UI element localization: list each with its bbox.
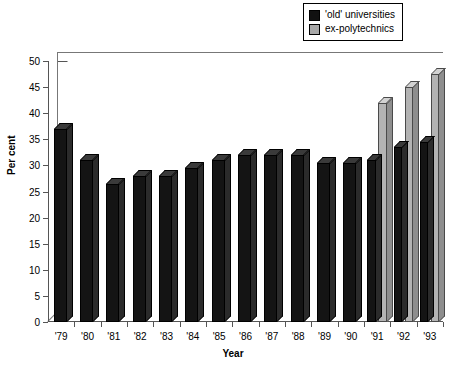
x-axis-tick [311,322,312,327]
y-axis-tick-label: 25 [29,186,40,197]
bar-old-universities [133,176,146,322]
bar-face-facet [185,168,198,322]
y-axis-tick [43,218,48,219]
legend-item-old-universities: 'old' universities [309,8,395,22]
bar-face-facet [159,176,172,322]
bar-old-universities [317,163,330,322]
bar-side-facet [67,123,73,322]
bar-old-universities [106,184,119,322]
x-axis-tick-label: '88 [292,331,305,342]
x-axis-tick [443,322,444,327]
bar-face-facet [367,160,376,322]
bar-face-facet [133,176,146,322]
x-axis-tick-label: '90 [344,331,357,342]
bar-side-facet [387,97,393,322]
bar-side-facet [330,157,336,322]
y-axis-tick-label: 30 [29,160,40,171]
x-axis-tick-label: '83 [160,331,173,342]
x-axis-tick [232,322,233,327]
plot-area: 05101520253035404550 '79'80'81'82'83'84'… [48,61,443,322]
y-axis-tick-label: 50 [29,56,40,67]
y-axis-tick-label: 45 [29,82,40,93]
y-axis-tick-label: 0 [34,317,40,328]
bar-face-facet [106,184,119,322]
x-axis-tick [127,322,128,327]
bar-old-universities [159,176,172,322]
legend-label-old-universities: 'old' universities [325,9,395,21]
x-axis-tick [390,322,391,327]
y-axis-tick [43,87,48,88]
bar-face-facet [291,155,304,322]
bar-face-facet [394,147,403,322]
bar-side-facet [251,149,257,322]
bar-side-facet [119,178,125,322]
bar-side-facet [402,141,408,322]
y-axis-tick [43,322,48,323]
y-axis-title: Per cent [6,136,17,175]
x-axis-tick [285,322,286,327]
x-axis-tick-label: '81 [107,331,120,342]
bar-old-universities [420,142,429,322]
x-axis-tick-label: '89 [318,331,331,342]
bar-old-universities [343,163,356,322]
legend-swatch-icon-old-universities [309,10,320,21]
y-axis-tick [43,192,48,193]
x-axis-tick-label: '87 [265,331,278,342]
bar-face-facet [264,155,277,322]
y-axis-tick-label: 35 [29,134,40,145]
bar-side-facet [376,154,382,322]
legend-swatch-icon-ex-polytechnics [309,24,320,35]
legend-item-ex-polytechnics: ex-polytechnics [309,22,395,36]
x-axis-tick-label: '85 [213,331,226,342]
bar-side-facet [172,170,178,322]
bar-side-facet [439,68,445,322]
x-axis-tick-label: '82 [134,331,147,342]
x-axis-title: Year [0,348,466,359]
x-axis-tick-label: '93 [423,331,436,342]
plot-depth-back-x-edge [57,52,443,53]
x-axis-tick [259,322,260,327]
x-axis-tick [74,322,75,327]
x-axis-tick [180,322,181,327]
bar-old-universities [80,160,93,322]
bar-side-facet [277,149,283,322]
x-axis-tick [206,322,207,327]
bar-side-facet [428,136,434,322]
x-axis-tick [101,322,102,327]
bar-face-facet [80,160,93,322]
bar-old-universities [264,155,277,322]
bar-face-facet [212,160,225,322]
bar-side-facet [198,162,204,322]
chart-legend: 'old' universities ex-polytechnics [303,3,403,41]
bar-face-facet [420,142,429,322]
bar-side-facet [356,157,362,322]
x-axis-tick-label: '84 [186,331,199,342]
bar-old-universities [185,168,198,322]
bar-side-facet [304,149,310,322]
x-axis-tick [364,322,365,327]
x-axis-tick-label: '86 [239,331,252,342]
y-axis-tick [43,296,48,297]
bar-face-facet [238,155,251,322]
bar-old-universities [212,160,225,322]
bar-face-facet [317,163,330,322]
bar-face-facet [343,163,356,322]
x-axis-tick [417,322,418,327]
y-axis-line [48,61,49,322]
x-axis-tick-label: '92 [397,331,410,342]
legend-label-ex-polytechnics: ex-polytechnics [325,23,394,35]
x-axis-tick [338,322,339,327]
y-axis-tick [43,165,48,166]
y-axis-tick [43,139,48,140]
y-axis-tick [43,61,48,62]
bar-old-universities [54,129,67,322]
bar-side-facet [225,154,231,322]
x-axis-tick-label: '80 [81,331,94,342]
y-axis-tick [43,270,48,271]
x-axis-tick-label: '79 [55,331,68,342]
y-axis-tick [43,113,48,114]
bar-chart-figure: 'old' universities ex-polytechnics Per c… [0,0,466,376]
bar-side-facet [93,154,99,322]
bar-side-facet [146,170,152,322]
bar-old-universities [394,147,403,322]
